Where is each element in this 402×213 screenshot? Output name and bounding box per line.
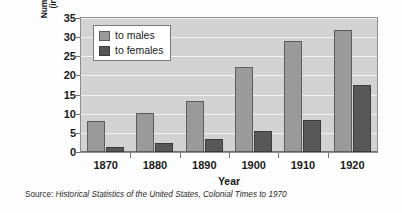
source-title: Historical Statistics of the United Stat… xyxy=(56,190,287,199)
x-tick-label-1920: 1920 xyxy=(322,160,382,171)
legend-label: to males xyxy=(115,30,155,41)
y-tick-mark-15 xyxy=(74,95,80,96)
y-tick-mark-20 xyxy=(74,75,80,76)
legend-swatch-icon xyxy=(99,31,110,41)
y-tick-label-35: 35 xyxy=(46,13,76,24)
y-tick-mark-5 xyxy=(74,133,80,134)
y-tick-label-20: 20 xyxy=(46,70,76,81)
bar-1890-to-males xyxy=(186,101,204,152)
bar-1900-to-females xyxy=(254,131,272,152)
bar-group xyxy=(229,18,278,152)
legend-item-to-females: to females xyxy=(99,44,163,57)
bar-1870-to-males xyxy=(87,121,105,152)
bar-1870-to-females xyxy=(106,147,124,152)
y-tick-label-25: 25 xyxy=(46,51,76,62)
x-tick-mark-1 xyxy=(180,153,181,158)
y-tick-label-5: 5 xyxy=(46,127,76,138)
legend-item-to-males: to males xyxy=(99,29,163,42)
y-axis-title-line-2: (in thousands) xyxy=(49,0,59,9)
legend-label: to females xyxy=(115,45,163,56)
y-tick-mark-30 xyxy=(74,37,80,38)
source-note: Source: Historical Statistics of the Uni… xyxy=(25,190,287,199)
y-tick-mark-0 xyxy=(74,152,80,153)
x-tick-mark-0 xyxy=(130,153,131,158)
bar-chart-figure: Number of Degrees (in thousands) 0510152… xyxy=(0,0,402,213)
bar-1900-to-males xyxy=(235,67,253,152)
y-tick-label-0: 0 xyxy=(46,147,76,158)
legend: to malesto females xyxy=(93,25,171,61)
bar-1880-to-females xyxy=(155,143,173,152)
y-tick-mark-10 xyxy=(74,114,80,115)
bar-1880-to-males xyxy=(136,113,154,152)
legend-swatch-icon xyxy=(99,46,110,56)
bar-group xyxy=(180,18,229,152)
bar-group xyxy=(278,18,327,152)
bar-1920-to-males xyxy=(334,30,352,153)
x-tick-mark-3 xyxy=(278,153,279,158)
x-axis-title: Year xyxy=(80,175,378,187)
x-tick-mark-2 xyxy=(229,153,230,158)
y-tick-label-10: 10 xyxy=(46,108,76,119)
source-label: Source: xyxy=(25,190,56,199)
bar-1890-to-females xyxy=(205,139,223,152)
bar-1920-to-females xyxy=(353,85,371,152)
bar-1910-to-females xyxy=(303,120,321,152)
x-tick-mark-4 xyxy=(328,153,329,158)
y-tick-mark-35 xyxy=(74,18,80,19)
y-tick-mark-25 xyxy=(74,56,80,57)
y-tick-label-30: 30 xyxy=(46,32,76,43)
bar-group xyxy=(328,18,377,152)
bar-1910-to-males xyxy=(284,41,302,152)
y-tick-label-15: 15 xyxy=(46,89,76,100)
